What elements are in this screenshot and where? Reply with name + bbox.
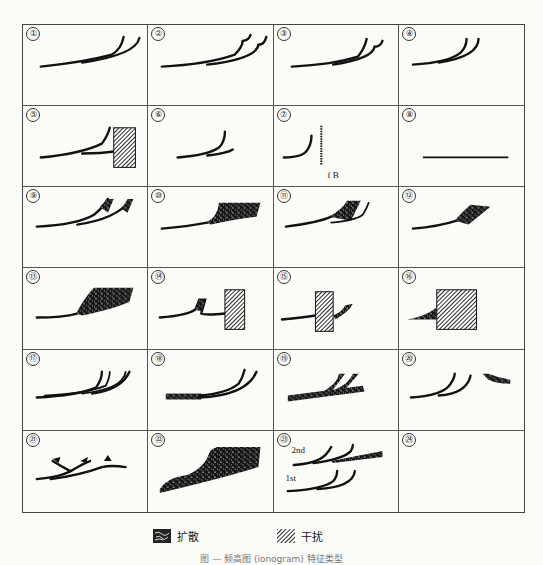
panel-trace-branch-with-interference [23,106,147,186]
panel-number: ⑲ [277,352,291,366]
panel-trace-huge-diffuse-area [148,431,272,512]
legend-interference-label: 干扰 [301,528,323,544]
panel-trace-empty [399,431,524,512]
legend-diffuse-label: 扩散 [177,528,199,544]
panel-1: ① [23,25,148,106]
panel-trace-single-short-branch [148,106,272,186]
panel-18: ⑱ [148,350,273,431]
panel-4: ④ [399,25,524,106]
interference-swatch-icon [277,529,295,543]
panel-14: ⑭ [148,268,273,349]
legend-item-interference: 干扰 [277,528,323,544]
panel-6: ⑥ [148,106,273,187]
panel-16: ⑯ [399,268,524,349]
legend-item-diffuse: 扩散 [153,528,199,544]
panel-number: ⑳ [402,352,416,366]
first-order-label: 1st [286,473,297,483]
panel-7: ⑦f B [274,106,399,187]
panel-2: ② [148,25,273,106]
legend: 扩散 干扰 [0,528,543,548]
panel-number: ⑧ [402,108,416,122]
panel-20: ⑳ [399,350,524,431]
panel-9: ⑨ [23,187,148,268]
panel-24: ㉔ [399,431,524,512]
diffuse-swatch-icon [153,529,171,543]
panel-trace-flat-line [399,106,524,186]
panel-13: ⑬ [23,268,148,349]
panel-trace-two-branch-hooked-right [274,25,398,105]
panel-15: ⑮ [274,268,399,349]
panel-trace-large-diffuse-area [23,268,147,348]
panel-trace-two-branch-hooked [148,25,272,105]
ionogram-pattern-grid: ①②③④⑤⑥⑦f B⑧⑨⑩⑪⑫⑬⑭⑮⑯⑰⑱⑲⑳㉑㉒㉓2nd1st㉔ [22,24,525,513]
panel-3: ③ [274,25,399,106]
panel-17: ⑰ [23,350,148,431]
panel-trace-interference-crossing [274,268,398,348]
panel-trace-diffuse-with-interference [148,268,272,348]
panel-number: ㉔ [402,433,416,447]
panel-trace-diffuse-band [148,187,272,267]
panel-number: ㉑ [26,433,40,447]
panel-trace-two-branch-short [399,25,524,105]
panel-trace-diffuse-wedge-small [399,187,524,267]
panel-11: ⑪ [274,187,399,268]
second-order-label: 2nd [292,445,306,455]
panel-number: ㉓ [277,433,291,447]
panel-23: ㉓2nd1st [274,431,399,512]
fb-label: f B [328,170,339,180]
panel-5: ⑤ [23,106,148,187]
panel-trace-diffuse-baseline-branches [148,350,272,430]
panel-number: ⑰ [26,352,40,366]
panel-number: ④ [402,27,416,41]
panel-trace-diffuse-thick-baseline [274,350,398,430]
figure-caption: 图 — 频高图 (ionogram) 特征类型 [0,552,543,565]
panel-21: ㉑ [23,431,148,512]
panel-number: ⑪ [277,189,291,203]
panel-number: ⑮ [277,270,291,284]
panel-19: ⑲ [274,350,399,431]
panel-trace-two-branch-diffuse-tips [23,187,147,267]
panel-10: ⑩ [148,187,273,268]
panel-12: ⑫ [399,187,524,268]
panel-trace-multiple-branches [23,350,147,430]
panel-number: ⑱ [151,352,165,366]
panel-number: ⑦ [277,108,291,122]
panel-trace-large-interference-block [399,268,524,348]
panel-number: ① [26,27,40,41]
panel-trace-branches-with-detached-diffuse [399,350,524,430]
panel-trace-first-second-order [274,431,398,512]
panel-trace-diffuse-wedge [274,187,398,267]
panel-number: ㉒ [151,433,165,447]
panel-number: ③ [277,27,291,41]
panel-22: ㉒ [148,431,273,512]
panel-8: ⑧ [399,106,524,187]
panel-trace-forked-tips [23,431,147,512]
panel-number: ⑫ [402,189,416,203]
panel-trace-two-branch [23,25,147,105]
